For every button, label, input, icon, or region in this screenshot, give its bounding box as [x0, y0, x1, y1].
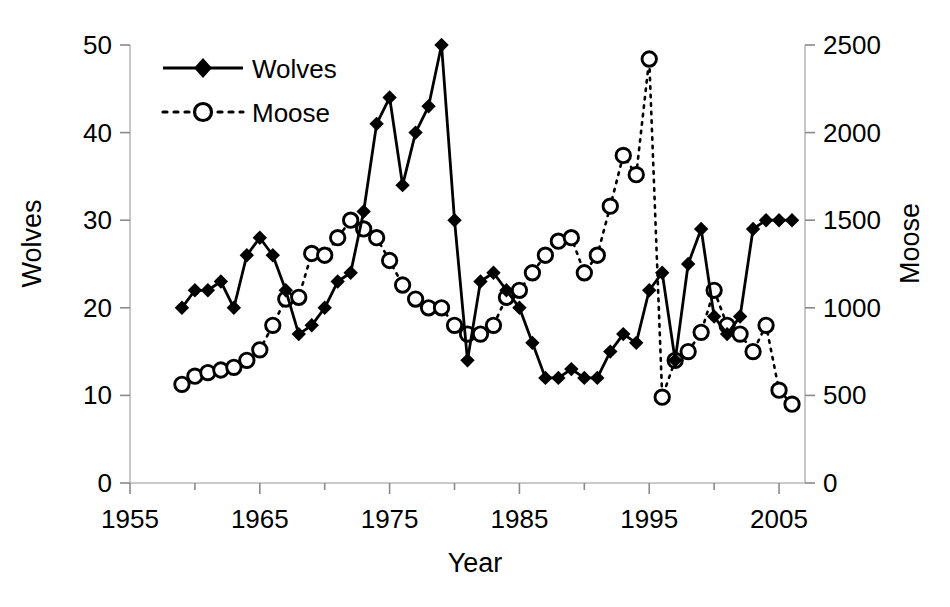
data-point-marker-moose — [694, 325, 708, 339]
data-point-marker-moose — [473, 327, 487, 341]
data-point-marker-moose — [616, 148, 630, 162]
data-point-marker-moose — [538, 248, 552, 262]
legend-moose-marker-icon — [195, 104, 212, 121]
data-point-marker-moose — [292, 290, 306, 304]
data-point-marker-moose — [785, 397, 799, 411]
y-axis-label-right: Moose — [895, 164, 926, 324]
data-point-marker-moose — [590, 248, 604, 262]
data-point-marker-moose — [525, 266, 539, 280]
data-point-marker-moose — [343, 213, 357, 227]
data-point-marker-moose — [603, 199, 617, 213]
data-point-marker-moose — [369, 231, 383, 245]
right-tick-label: 2500 — [823, 30, 881, 60]
data-point-marker-moose — [642, 52, 656, 66]
x-tick-label: 1955 — [101, 504, 159, 534]
data-point-marker-moose — [253, 343, 267, 357]
x-tick-label: 1975 — [361, 504, 419, 534]
left-tick-label: 20 — [83, 293, 112, 323]
right-tick-label: 500 — [823, 380, 866, 410]
right-tick-label: 1000 — [823, 293, 881, 323]
chart-figure: 01020304050 05001000150020002500 1955196… — [0, 0, 950, 607]
data-point-marker-moose — [681, 344, 695, 358]
data-point-marker-moose — [655, 390, 669, 404]
data-point-marker-moose — [434, 301, 448, 315]
data-point-marker-moose — [266, 318, 280, 332]
wolves-moose-line-chart: 01020304050 05001000150020002500 1955196… — [0, 0, 950, 607]
data-point-marker-moose — [330, 231, 344, 245]
x-tick-label: 1965 — [231, 504, 289, 534]
data-point-marker-moose — [746, 344, 760, 358]
data-point-marker-moose — [564, 231, 578, 245]
right-tick-label: 1500 — [823, 205, 881, 235]
data-point-marker-moose — [577, 266, 591, 280]
data-point-marker-moose — [759, 318, 773, 332]
x-tick-label: 1995 — [620, 504, 678, 534]
left-tick-label: 0 — [98, 468, 112, 498]
left-tick-label: 50 — [83, 30, 112, 60]
data-point-marker-moose — [318, 248, 332, 262]
right-tick-label: 2000 — [823, 118, 881, 148]
data-point-marker-moose — [486, 318, 500, 332]
data-point-marker-moose — [395, 278, 409, 292]
x-tick-label: 1985 — [491, 504, 549, 534]
x-axis-label: Year — [375, 548, 575, 579]
data-point-marker-moose — [382, 253, 396, 267]
left-tick-label: 10 — [83, 380, 112, 410]
legend-label-moose: Moose — [252, 98, 330, 128]
data-point-marker-moose — [447, 318, 461, 332]
data-point-marker-moose — [240, 353, 254, 367]
data-point-marker-moose — [629, 167, 643, 181]
y-axis-label-left: Wolves — [17, 164, 48, 324]
left-tick-label: 30 — [83, 205, 112, 235]
legend-label-wolves: Wolves — [252, 54, 337, 84]
x-tick-label: 2005 — [750, 504, 808, 534]
data-point-marker-moose — [512, 283, 526, 297]
right-tick-label: 0 — [823, 468, 837, 498]
data-point-marker-moose — [408, 292, 422, 306]
data-point-marker-moose — [772, 383, 786, 397]
left-tick-label: 40 — [83, 118, 112, 148]
data-point-marker-moose — [733, 327, 747, 341]
